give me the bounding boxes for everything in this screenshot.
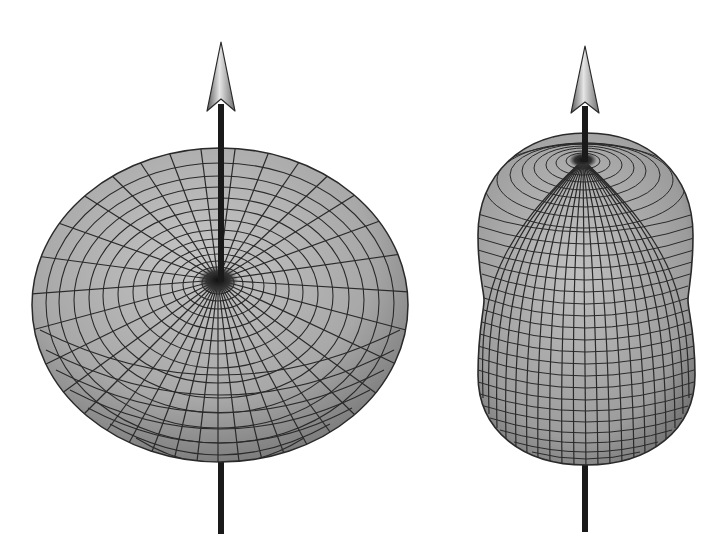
left-axis-upper (218, 104, 224, 282)
left-pattern-panel (30, 42, 410, 534)
right-axis-arrowhead-icon (571, 46, 599, 113)
peanut-surface (478, 133, 695, 470)
radiation-pattern-figure: Two 3D radiation pattern surfaces, each … (0, 0, 718, 559)
right-axis-lower (582, 460, 588, 532)
right-axis-upper (582, 106, 588, 162)
left-axis-arrowhead-icon (207, 42, 235, 111)
right-pattern-panel (478, 46, 695, 532)
